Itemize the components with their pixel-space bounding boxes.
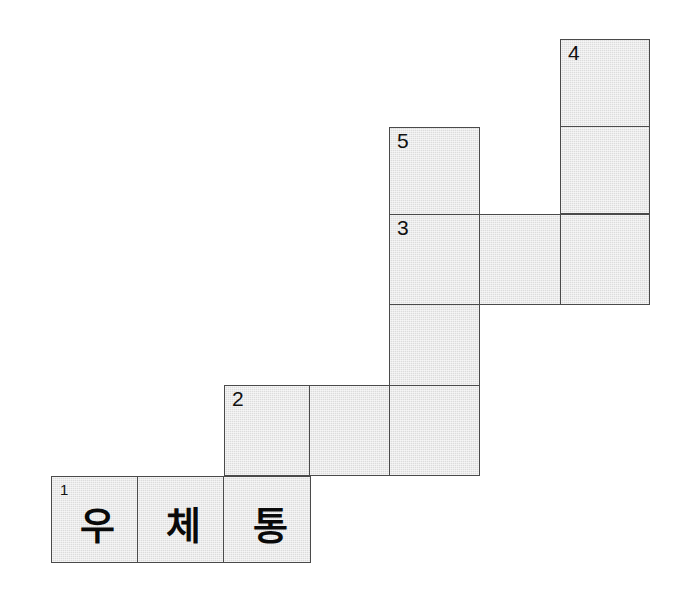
cell-number: 4 <box>568 42 580 63</box>
cell-letter: 통 <box>224 477 310 562</box>
puzzle-cell[interactable]: 통 <box>223 476 311 563</box>
puzzle-cell[interactable] <box>479 214 561 305</box>
puzzle-cell[interactable]: 5 <box>389 127 480 215</box>
puzzle-cell[interactable]: 3 <box>389 214 480 305</box>
puzzle-cell[interactable] <box>309 385 390 476</box>
cell-letter: 체 <box>138 477 223 562</box>
puzzle-cell[interactable]: 2 <box>224 385 310 476</box>
puzzle-cell[interactable] <box>389 304 480 386</box>
cell-number: 2 <box>232 388 244 409</box>
cell-number: 5 <box>397 130 409 151</box>
cell-letter: 우 <box>52 477 137 562</box>
puzzle-cell[interactable]: 4 <box>560 39 650 127</box>
puzzle-cell[interactable]: 1우 <box>51 476 138 563</box>
puzzle-cell[interactable] <box>389 385 480 476</box>
crossword-grid: 45321우체통 <box>0 0 695 598</box>
puzzle-cell[interactable] <box>560 126 650 214</box>
cell-number: 3 <box>397 217 409 238</box>
puzzle-cell[interactable] <box>560 214 650 305</box>
puzzle-cell[interactable]: 체 <box>137 476 224 563</box>
